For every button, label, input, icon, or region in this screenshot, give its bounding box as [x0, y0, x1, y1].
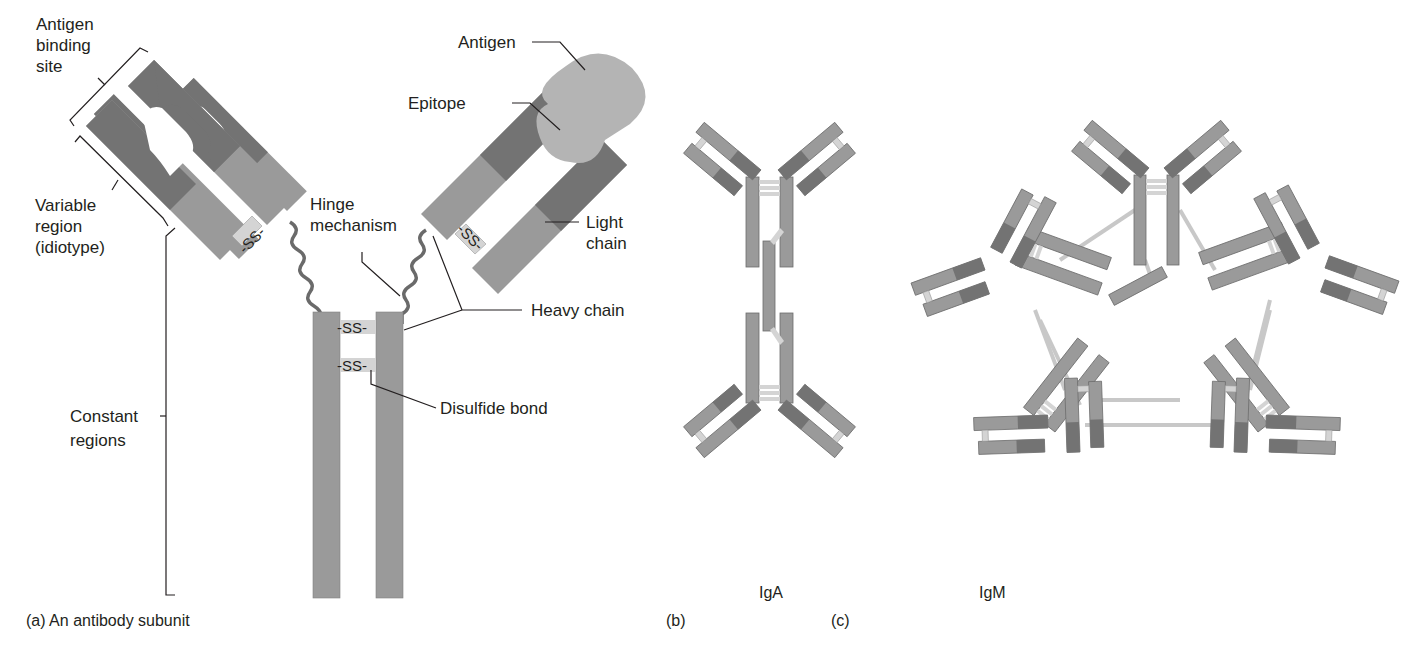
label-variable-region-3: (idiotype)	[35, 237, 105, 258]
label-antigen-binding-site-1: Antigen	[36, 14, 94, 35]
caption-panel-a: (a) An antibody subunit	[26, 611, 190, 631]
label-light-chain-2: chain	[586, 233, 627, 254]
caption-panel-c: (c)	[831, 611, 850, 631]
label-epitope: Epitope	[408, 93, 466, 114]
label-antigen-binding-site-2: binding	[36, 35, 91, 56]
label-antigen: Antigen	[458, 32, 516, 53]
title-igm: IgM	[979, 583, 1006, 603]
label-constant-regions-2: regions	[70, 430, 126, 451]
label-heavy-chain: Heavy chain	[531, 300, 625, 321]
label-constant-regions-1: Constant	[70, 406, 138, 427]
label-hinge-mechanism-1: Hinge	[310, 194, 354, 215]
label-antigen-binding-site-3: site	[36, 56, 62, 77]
label-variable-region-1: Variable	[35, 195, 96, 216]
antibody-figure: -SS- -SS- -SS- -SS-	[0, 0, 1417, 657]
title-iga: IgA	[759, 583, 783, 603]
svg-text:-SS-: -SS-	[337, 319, 367, 336]
panel-b-iga-dimer	[680, 122, 858, 457]
label-light-chain-1: Light	[586, 212, 623, 233]
caption-panel-b: (b)	[666, 611, 686, 631]
label-variable-region-2: region	[35, 216, 82, 237]
svg-text:-SS-: -SS-	[337, 357, 367, 374]
label-disulfide-bond: Disulfide bond	[440, 398, 548, 419]
panel-c-igm-pentamer	[911, 120, 1399, 454]
label-hinge-mechanism-2: mechanism	[310, 215, 397, 236]
